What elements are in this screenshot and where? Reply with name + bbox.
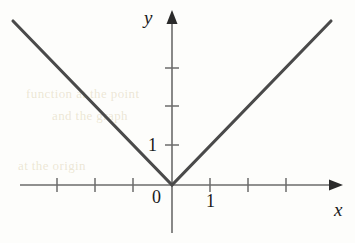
arrow-up-icon <box>167 10 178 24</box>
arrow-right-icon <box>329 180 343 191</box>
y-tick-label-1: 1 <box>148 136 157 154</box>
x-axis-group <box>20 180 343 191</box>
y-axis-label: y <box>144 8 152 27</box>
x-tick-label-1: 1 <box>206 192 215 210</box>
y-axis-group <box>167 10 178 233</box>
x-axis-label: x <box>334 200 342 219</box>
graph-canvas <box>0 0 355 243</box>
figure-container: function at the point and the graph at t… <box>0 0 355 243</box>
origin-label: 0 <box>152 188 161 206</box>
